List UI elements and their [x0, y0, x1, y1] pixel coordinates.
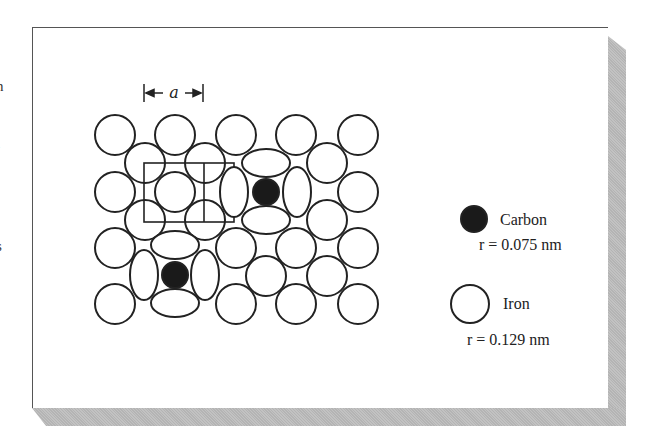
carbon-atom [253, 179, 279, 205]
lattice-parameter-label: a [169, 83, 179, 102]
legend-carbon-radius: r = 0.075 nm [479, 236, 562, 254]
legend-carbon-name: Carbon [500, 211, 547, 229]
legend-iron-symbol [451, 285, 489, 323]
carbon-atom [162, 262, 188, 288]
legend-iron-radius: r = 0.129 nm [467, 331, 550, 349]
legend-iron-name: Iron [503, 295, 530, 313]
iron-carbon-lattice-diagram: a [0, 0, 653, 439]
legend-carbon-symbol [461, 206, 487, 232]
